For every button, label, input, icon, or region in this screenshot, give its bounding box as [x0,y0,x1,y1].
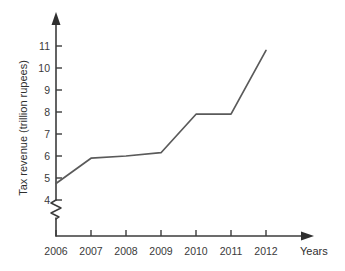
x-axis-group [56,232,314,241]
x-tick-label-2011: 2011 [220,245,243,257]
x-tick-label-2009: 2009 [149,245,173,257]
x-axis-arrow-icon [301,232,314,241]
x-tick-label-2010: 2010 [184,245,208,257]
y-axis-break-icon [51,200,61,219]
y-tick-label-9: 9 [44,84,50,96]
x-tick-label-2008: 2008 [114,245,138,257]
y-tick-group: 11 10 9 8 7 6 5 4 [38,40,62,206]
x-tick-label-2006: 2006 [44,245,68,257]
y-tick-label-7: 7 [44,128,50,140]
y-tick-label-5: 5 [44,172,50,184]
line-chart-figure: 11 10 9 8 7 6 5 4 Tax revenue (trillion … [0,0,345,271]
chart-canvas: 11 10 9 8 7 6 5 4 Tax revenue (trillion … [0,0,345,271]
y-tick-label-6: 6 [44,150,50,162]
y-tick-label-8: 8 [44,106,50,118]
data-series-line [56,50,266,183]
x-tick-label-2012: 2012 [254,245,278,257]
y-axis-title: Tax revenue (trillion rupees) [17,60,29,196]
y-tick-label-10: 10 [38,62,50,74]
y-tick-label-4: 4 [44,194,50,206]
x-axis-title: Years [300,245,328,257]
x-tick-label-2007: 2007 [79,245,103,257]
x-tick-group: 2006 2007 2008 2009 2010 2011 2012 [44,230,278,257]
y-axis-arrow-icon [52,12,61,25]
y-tick-label-11: 11 [39,40,50,52]
